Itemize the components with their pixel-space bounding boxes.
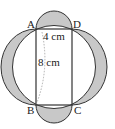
- vertex-b-label: B: [27, 105, 34, 116]
- vertex-d-label: D: [73, 19, 81, 30]
- diagonal-dotted: [36, 32, 45, 105]
- vertex-a-label: A: [27, 19, 35, 30]
- lune-figure: A D B C 4 cm 8 cm: [0, 0, 115, 129]
- width-label: 4 cm: [43, 31, 65, 42]
- diagonal-label: 8 cm: [38, 57, 60, 68]
- vertex-c-label: C: [74, 105, 81, 116]
